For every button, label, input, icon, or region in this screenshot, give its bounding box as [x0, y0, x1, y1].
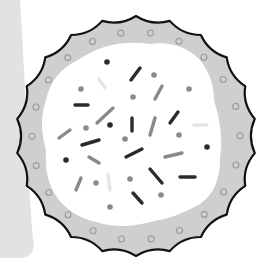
icing-blob [42, 43, 221, 226]
sprinkle-dot [122, 136, 128, 142]
sprinkle-dot [186, 86, 192, 92]
sprinkle-dot [158, 192, 164, 198]
sprinkle-dot [107, 122, 113, 128]
sprinkle-dot [83, 125, 89, 131]
sprinkle-dot [176, 132, 182, 138]
sprinkle-dot [107, 204, 113, 210]
sprinkle-dot [130, 94, 136, 100]
sprinkle-dot [104, 59, 110, 65]
sprinkle-dot [63, 157, 69, 163]
cookie-illustration [0, 0, 268, 264]
sprinkle-dot [204, 144, 210, 150]
sprinkle-dot [151, 72, 157, 78]
sprinkle-dot [127, 176, 133, 182]
sprinkle-dot [78, 86, 84, 92]
sprinkle-dot [93, 180, 99, 186]
sprinkle-dash [108, 174, 110, 190]
